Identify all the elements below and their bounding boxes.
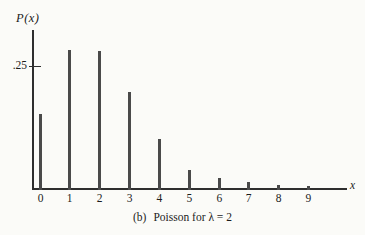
stick-bar-x1 [68,50,71,190]
x-tick-label-1: 1 [64,192,76,204]
stick-bar-x2 [98,51,101,190]
y-tick-mark-025 [29,66,41,68]
y-tick-label-025: .25 [6,59,27,71]
stick-bar-x3 [128,92,131,190]
stick-bar-x7 [247,182,250,190]
stick-bar-x5 [188,170,191,190]
caption-body: Poisson for λ = 2 [153,211,232,223]
x-tick-label-2: 2 [94,192,106,204]
x-tick-label-0: 0 [35,192,47,204]
plot-area: P(x) .25 x 0123456789 [0,0,365,210]
x-tick-label-5: 5 [183,192,195,204]
stick-bar-x9 [307,186,310,190]
figure-caption: (b)Poisson for λ = 2 [0,211,365,223]
stick-bar-x4 [158,139,161,190]
x-tick-label-4: 4 [153,192,165,204]
poisson-distribution-figure: P(x) .25 x 0123456789 (b)Poisson for λ =… [0,0,365,235]
y-axis-title: P(x) [16,11,40,26]
x-tick-label-6: 6 [213,192,225,204]
x-axis-title: x [350,179,355,191]
x-tick-label-9: 9 [302,192,314,204]
y-axis-line [32,30,34,189]
x-tick-label-7: 7 [243,192,255,204]
caption-index: (b) [133,211,146,223]
stick-bar-x6 [218,178,221,190]
stick-bar-x8 [277,185,280,190]
x-tick-label-3: 3 [124,192,136,204]
x-tick-label-8: 8 [273,192,285,204]
stick-bar-x0 [39,114,42,190]
